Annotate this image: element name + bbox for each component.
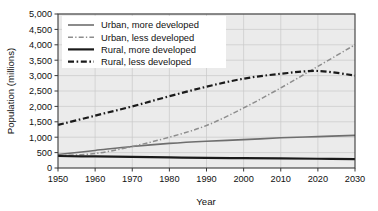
legend-label: Rural, less developed (101, 56, 191, 67)
x-tick-label: 2030 (345, 174, 365, 184)
x-tick-label: 2000 (233, 174, 253, 184)
y-tick-label: 1,000 (29, 133, 52, 143)
chart-canvas: 05001,0001,5002,0002,5003,0003,5004,0004… (0, 0, 378, 211)
x-axis-title: Year (196, 196, 216, 207)
x-tick-label: 1950 (48, 174, 68, 184)
y-tick-label: 0 (47, 163, 52, 173)
legend-label: Urban, more developed (101, 19, 199, 30)
y-tick-label: 2,000 (29, 102, 52, 112)
y-tick-label: 5,000 (29, 9, 52, 19)
legend-label: Urban, less developed (101, 32, 194, 43)
x-tick-label: 1980 (159, 174, 179, 184)
y-tick-label: 4,500 (29, 25, 52, 35)
x-tick-label: 1960 (85, 174, 105, 184)
x-tick-label: 1970 (122, 174, 142, 184)
y-tick-label: 2,500 (29, 86, 52, 96)
y-axis-title: Population (millions) (5, 48, 16, 134)
y-tick-label: 3,000 (29, 71, 52, 81)
y-tick-label: 4,000 (29, 40, 52, 50)
legend-label: Rural, more developed (101, 44, 196, 55)
x-tick-label: 2010 (271, 174, 291, 184)
chart-legend: Urban, more developedUrban, less develop… (62, 16, 226, 68)
population-line-chart: 05001,0001,5002,0002,5003,0003,5004,0004… (0, 0, 378, 211)
x-tick-label: 1990 (196, 174, 216, 184)
x-axis-tick-labels: 195019601970198019902000201020202030 (48, 174, 365, 184)
y-axis-tick-labels: 05001,0001,5002,0002,5003,0003,5004,0004… (29, 9, 52, 173)
y-tick-label: 3,500 (29, 56, 52, 66)
x-tick-label: 2020 (308, 174, 328, 184)
y-tick-label: 500 (37, 148, 52, 158)
y-tick-label: 1,500 (29, 117, 52, 127)
